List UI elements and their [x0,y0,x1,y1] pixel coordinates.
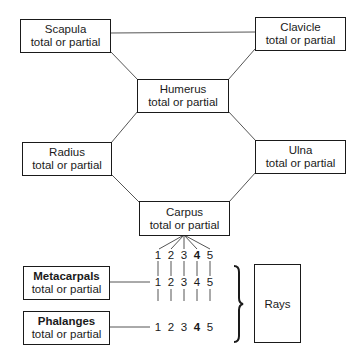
metacarpals-sub: total or partial [24,283,109,296]
metacarpals-label: Metacarpals [24,270,109,283]
phalanges-label: Phalanges [24,315,109,328]
radius-sub: total or partial [23,159,111,172]
rays-label: Rays [264,298,290,310]
ray-number: 3 [179,321,189,333]
ulna-sub: total or partial [256,157,345,170]
ray-number: 1 [153,321,163,333]
clavicle-box: Clavicle total or partial [255,17,346,51]
ray-number: 3 [179,249,189,261]
humerus-label: Humerus [138,83,228,96]
ray-number: 4 [192,321,202,333]
carpus-box: Carpus total or partial [139,201,230,236]
rays-box: Rays [254,264,301,343]
phalanges-box: Phalanges total or partial [23,311,110,345]
ray-number: 2 [166,321,176,333]
edge-scapula-humerus [110,51,138,80]
metacarpals-box: Metacarpals total or partial [23,266,110,300]
ray-number: 2 [166,276,176,288]
ray-number: 1 [153,249,163,261]
edge-ulna-carpus [229,172,256,202]
clavicle-sub: total or partial [256,34,345,47]
scapula-label: Scapula [21,23,110,36]
phalanges-sub: total or partial [24,328,109,341]
connector-lines [0,0,364,359]
ray-number: 3 [179,276,189,288]
scapula-box: Scapula total or partial [20,19,111,53]
ray-number: 4 [192,249,202,261]
edge-humerus-ulna [228,111,256,141]
radius-label: Radius [23,146,111,159]
clavicle-label: Clavicle [256,21,345,34]
ray-number: 1 [153,276,163,288]
edge-scapula-clavicle [110,32,255,33]
ray-number: 5 [205,321,215,333]
edge-radius-carpus [111,174,139,202]
ulna-box: Ulna total or partial [255,140,346,174]
humerus-sub: total or partial [138,96,228,109]
ray-number: 5 [205,249,215,261]
ulna-label: Ulna [256,144,345,157]
edge-humerus-radius [111,111,138,143]
edge-clavicle-humerus [228,49,255,80]
curly-brace [234,266,243,342]
ray-number: 2 [166,249,176,261]
carpus-sub: total or partial [140,219,229,232]
ray-number: 4 [192,276,202,288]
scapula-sub: total or partial [21,36,110,49]
carpus-label: Carpus [140,206,229,219]
radius-box: Radius total or partial [22,142,112,176]
ray-number: 5 [205,276,215,288]
humerus-box: Humerus total or partial [137,79,229,113]
